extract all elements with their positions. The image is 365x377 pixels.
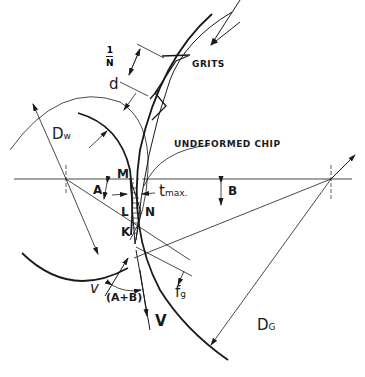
grinding-diagram: GRITS 1 N UNDEFORMED CHIP d Dw DG M L N …	[0, 0, 365, 377]
point-l-label: L	[121, 206, 129, 218]
d-label: d	[109, 77, 119, 92]
velocity-v-upper-label: V	[155, 314, 167, 329]
dg-label: DG	[257, 318, 276, 333]
grits-label: GRITS	[192, 60, 225, 69]
velocity-v-lower-label: v	[90, 281, 99, 296]
angle-b-label: B	[228, 185, 237, 197]
dw-label: Dw	[52, 127, 71, 142]
tmax-sub: max.	[165, 188, 187, 198]
dw-sub: w	[64, 131, 71, 141]
dg-sub: G	[269, 322, 276, 332]
tmax-label: tmax.	[159, 184, 187, 199]
grit-zigzag	[150, 55, 190, 120]
one-over-n-label: 1 N	[106, 45, 114, 68]
lower-left-arc	[22, 253, 128, 281]
fg-label: fg	[175, 285, 186, 300]
dw-main: D	[52, 125, 64, 143]
angle-a-plus-b-label: (A+B)	[106, 292, 142, 303]
one-over-n-denominator: N	[106, 58, 114, 68]
angle-a-label: A	[93, 184, 102, 196]
point-m-label: M	[117, 168, 129, 180]
dg-main: D	[257, 316, 269, 334]
point-n-label: N	[145, 206, 155, 218]
fg-sub: g	[180, 289, 186, 299]
undeformed-chip-label: UNDEFORMED CHIP	[174, 140, 280, 149]
one-over-n-numerator: 1	[107, 45, 113, 55]
point-k-label: K	[121, 226, 130, 238]
